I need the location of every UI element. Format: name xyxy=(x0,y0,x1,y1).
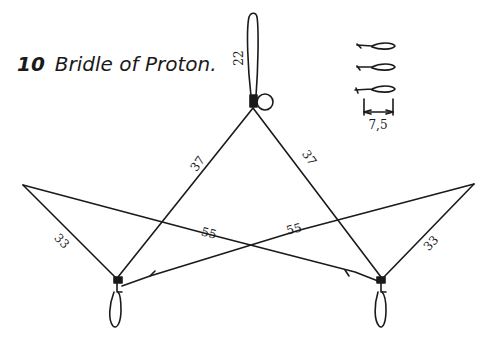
upper-right-leg xyxy=(253,108,381,277)
label-knot-dimension: 7,5 xyxy=(368,118,387,132)
tow-loop xyxy=(248,13,259,96)
label-upper-right: 37 xyxy=(299,147,319,168)
left-knot xyxy=(114,277,122,283)
right-bottom-loop xyxy=(375,292,386,327)
label-upper-left: 37 xyxy=(188,153,208,174)
upper-left-leg xyxy=(118,108,253,277)
label-cross-left: 55 xyxy=(200,224,218,241)
knot-sketches xyxy=(355,43,395,93)
left-bottom-loop xyxy=(110,292,121,327)
label-outer-left: 33 xyxy=(51,231,72,252)
bridle-diagram: 22 37 37 55 55 33 33 7,5 xyxy=(0,0,483,343)
label-tow-loop: 22 xyxy=(232,50,246,65)
outer-left-leg xyxy=(23,185,116,278)
right-knot xyxy=(377,277,385,283)
outer-right-leg xyxy=(383,184,474,278)
label-cross-right: 55 xyxy=(285,220,303,237)
tow-ring xyxy=(257,94,273,110)
top-knot xyxy=(250,95,257,107)
dimension-marker xyxy=(364,99,393,115)
